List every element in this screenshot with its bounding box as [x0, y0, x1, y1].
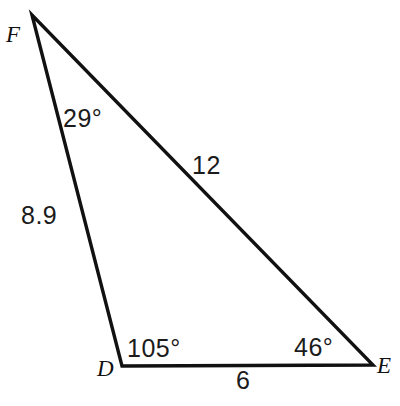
- angle-label-e: 46°: [294, 335, 333, 360]
- side-label-de: 6: [236, 368, 250, 393]
- vertex-label-e: E: [377, 354, 391, 377]
- side-label-df: 8.9: [21, 203, 57, 228]
- side-label-fe: 12: [192, 153, 221, 178]
- triangle-outline: [32, 15, 373, 366]
- triangle-shape: [0, 0, 400, 406]
- geometry-figure: F D E 29° 105° 46° 8.9 12 6: [0, 0, 400, 406]
- angle-label-f: 29°: [63, 106, 102, 131]
- angle-label-d: 105°: [127, 336, 181, 361]
- vertex-label-d: D: [97, 357, 114, 380]
- vertex-label-f: F: [6, 23, 20, 46]
